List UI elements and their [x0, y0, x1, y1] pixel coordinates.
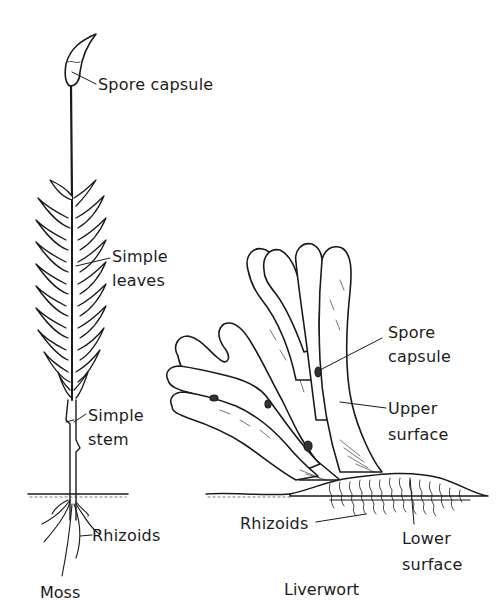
- label-liverwort-rhizoids: Rhizoids: [240, 513, 308, 534]
- label-liverwort-spore-capsule-line2: capsule: [388, 346, 451, 367]
- label-moss-spore-capsule: Spore capsule: [98, 74, 213, 95]
- caption-liverwort: Liverwort: [284, 580, 359, 599]
- moss-drawing: [28, 34, 128, 576]
- label-moss-rhizoids: Rhizoids: [92, 525, 160, 546]
- label-liverwort-lower-surface-line2: surface: [402, 554, 463, 575]
- label-moss-simple-stem-line2: stem: [88, 429, 129, 450]
- liverwort-drawing: [167, 244, 488, 496]
- label-liverwort-upper-surface-line2: surface: [388, 424, 449, 445]
- label-moss-simple-leaves-line1: Simple: [112, 246, 168, 267]
- label-liverwort-spore-capsule-line1: Spore: [388, 322, 435, 343]
- caption-moss: Moss: [40, 583, 80, 602]
- label-liverwort-upper-surface-line1: Upper: [388, 398, 437, 419]
- label-moss-simple-leaves-line2: leaves: [112, 270, 165, 291]
- label-liverwort-lower-surface-line1: Lower: [402, 528, 451, 549]
- label-moss-simple-stem-line1: Simple: [88, 405, 144, 426]
